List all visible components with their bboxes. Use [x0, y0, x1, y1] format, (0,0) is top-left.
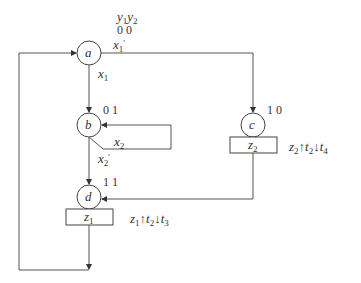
svg-text:d: d — [85, 189, 92, 204]
output-z2-box: z2 — [230, 137, 277, 154]
state-a: a — [77, 41, 101, 65]
svg-text:c: c — [249, 117, 255, 132]
cond-a-b: x1 — [97, 66, 108, 83]
svg-text:b: b — [85, 117, 92, 132]
state-b: b — [77, 113, 101, 137]
state-b-code: 0 1 — [103, 103, 118, 117]
state-c: c — [241, 113, 265, 137]
edge-b-b — [89, 125, 171, 149]
state-d-code: 1 1 — [103, 175, 118, 189]
state-a-code: 0 0 — [117, 23, 132, 37]
state-c-code: 1 0 — [267, 103, 282, 117]
timing-z2: z2↑t2↓t4 — [288, 139, 328, 156]
cond-a-c: x1' — [112, 37, 125, 54]
output-z1-box: z1 — [66, 209, 113, 226]
edge-d-a — [19, 53, 89, 270]
state-d: d — [77, 185, 101, 209]
flowchart: y1y2 a 0 0 b 0 1 c 1 0 d 1 1 z2 z1 x1' x… — [0, 0, 361, 283]
edge-c-d — [102, 153, 253, 199]
edge-a-c — [101, 53, 253, 112]
cond-b-b: x2 — [113, 134, 124, 151]
cond-b-d: x2' — [97, 151, 110, 168]
svg-text:a: a — [85, 45, 92, 60]
timing-z1: z1↑t2↓t3 — [129, 211, 169, 228]
